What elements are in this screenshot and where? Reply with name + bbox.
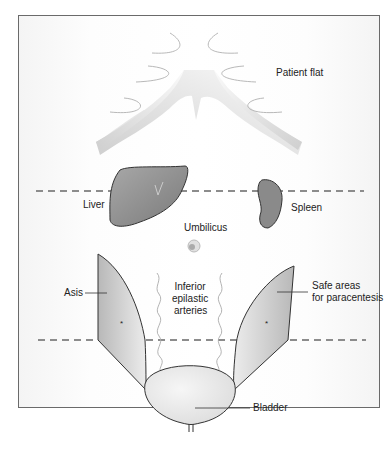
safe-areas-label: Safe areas for paracentesis <box>312 280 383 304</box>
inferior-epigastric-label: Inferior epilastic arteries <box>176 281 206 317</box>
asterisk-right: * <box>265 318 268 330</box>
asis-label: Asis <box>64 287 83 299</box>
liver-label: Liver <box>83 199 105 211</box>
spleen-shape <box>258 180 282 228</box>
spleen-label: Spleen <box>291 202 322 214</box>
left-artery <box>157 273 162 370</box>
bladder-shape <box>145 366 236 425</box>
bladder-label: Bladder <box>253 402 287 414</box>
patient-flat-label: Patient flat <box>276 67 323 79</box>
asterisk-left: * <box>120 318 123 330</box>
rib-cage <box>96 33 302 155</box>
liver-shape <box>110 166 188 226</box>
right-safe-area <box>234 266 294 390</box>
umbilicus-label: Umbilicus <box>184 222 227 234</box>
right-artery <box>217 273 222 370</box>
